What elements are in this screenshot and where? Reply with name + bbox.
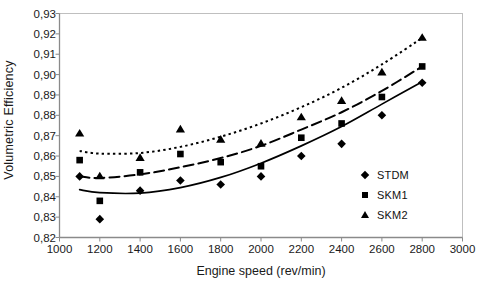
chart-figure: Volumetric Efficiency 0,820,830,840,850,… (0, 0, 487, 289)
diamond-marker-icon (359, 168, 372, 181)
data-point-skm1 (97, 198, 104, 205)
data-point-skm2 (136, 153, 145, 161)
data-point-skm1 (338, 120, 345, 127)
data-point-skm2 (377, 68, 386, 76)
data-point-stdm (96, 215, 105, 224)
data-point-skm1 (419, 63, 426, 70)
data-point-skm1 (76, 157, 83, 164)
data-point-skm2 (418, 33, 427, 41)
data-point-skm1 (379, 94, 386, 101)
data-point-skm1 (217, 159, 224, 166)
legend-label: STDM (377, 169, 409, 181)
data-point-skm2 (297, 113, 306, 121)
data-point-stdm (378, 111, 387, 120)
legend-label: SKM2 (377, 209, 408, 221)
triangle-marker-icon (359, 208, 372, 221)
data-point-skm2 (75, 129, 84, 137)
legend-item-skm2: SKM2 (359, 206, 433, 223)
plot-area (0, 0, 487, 289)
data-point-stdm (176, 176, 185, 185)
chart-legend: STDMSKM1SKM2 (359, 166, 433, 226)
data-point-stdm (418, 78, 427, 87)
data-point-stdm (337, 140, 346, 149)
data-point-stdm (75, 172, 84, 181)
legend-label: SKM1 (377, 189, 408, 201)
data-point-skm2 (256, 139, 265, 147)
trend-line-skm2 (80, 38, 423, 154)
data-point-stdm (297, 152, 306, 161)
data-point-skm2 (95, 172, 104, 180)
data-point-skm2 (337, 96, 346, 104)
data-point-skm1 (137, 169, 144, 176)
legend-item-stdm: STDM (359, 166, 433, 183)
square-marker-icon (359, 188, 372, 201)
data-point-stdm (216, 180, 225, 189)
data-point-skm1 (258, 163, 265, 170)
x-axis-title: Engine speed (rev/min) (59, 264, 463, 278)
data-point-skm2 (176, 125, 185, 133)
data-point-skm1 (298, 134, 305, 141)
legend-item-skm1: SKM1 (359, 186, 433, 203)
data-point-stdm (257, 172, 266, 181)
trend-line-skm1 (80, 66, 423, 178)
data-point-skm1 (177, 151, 184, 158)
